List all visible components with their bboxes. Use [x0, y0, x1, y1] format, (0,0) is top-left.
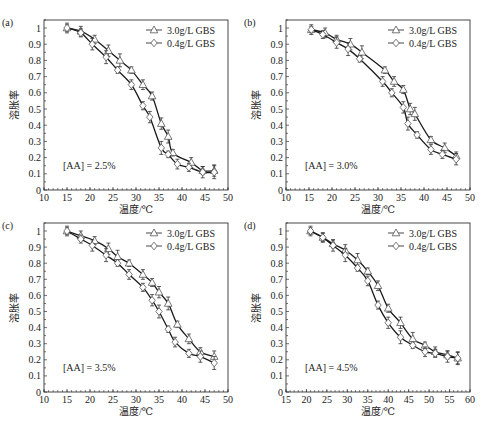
legend-triangle-icon [150, 229, 158, 236]
y-tick-label: 1 [36, 23, 41, 34]
diamond-marker [211, 359, 217, 367]
legend: 3.0g/L GBS0.4g/L GBS [146, 228, 215, 252]
triangle-marker [148, 92, 156, 99]
legend-diamond-icon [393, 242, 399, 250]
fit-curve [67, 28, 214, 173]
y-tick-label: 1 [278, 226, 283, 237]
x-tick-label: 30 [131, 192, 141, 203]
y-tick-label: 0.5 [29, 104, 42, 115]
x-tick-label: 25 [108, 192, 118, 203]
annotation-aa-concentration: [AA] = 2.5% [63, 160, 116, 171]
x-tick-label: 20 [327, 192, 337, 203]
legend-label: 3.0g/L GBS [409, 25, 457, 36]
x-tick-label: 15 [62, 192, 72, 203]
fit-curve [67, 28, 214, 171]
triangle-marker [441, 144, 449, 151]
panel-label: (a) [2, 17, 13, 29]
y-tick-label: 0.8 [29, 258, 42, 269]
legend-diamond-icon [393, 39, 399, 47]
x-tick-label: 45 [442, 192, 452, 203]
y-tick-label: 0.1 [29, 168, 42, 179]
x-tick-label: 35 [154, 394, 164, 405]
legend: 3.0g/L GBS0.4g/L GBS [388, 25, 457, 49]
y-tick-label: 0.9 [29, 242, 42, 253]
diamond-marker [165, 325, 171, 333]
x-tick-label: 60 [465, 394, 475, 405]
chart-panel-b: 00.10.20.30.40.50.60.70.80.9110152025303… [244, 17, 475, 215]
x-tick-label: 40 [177, 192, 187, 203]
y-tick-label: 0.2 [271, 354, 284, 365]
y-tick-label: 0.5 [271, 104, 284, 115]
triangle-marker [374, 282, 382, 289]
x-tick-label: 20 [85, 394, 95, 405]
y-axis-label: 溶胀率 [8, 293, 20, 323]
y-tick-label: 0.9 [271, 242, 284, 253]
x-tick-label: 50 [465, 192, 475, 203]
legend-triangle-icon [150, 26, 158, 33]
y-tick-label: 0.7 [29, 274, 42, 285]
x-tick-label: 50 [223, 394, 233, 405]
legend-label: 3.0g/L GBS [167, 25, 215, 36]
x-tick-label: 40 [177, 394, 187, 405]
x-tick-label: 30 [373, 192, 383, 203]
y-tick-label: 0.9 [29, 39, 42, 50]
fit-curve [311, 30, 456, 160]
chart-panel-d: 00.10.20.30.40.50.60.70.80.9115202530354… [244, 220, 475, 417]
annotation-aa-concentration: [AA] = 3.0% [305, 160, 358, 171]
y-tick-label: 0.2 [29, 152, 42, 163]
diamond-marker [422, 348, 428, 356]
x-tick-label: 55 [445, 394, 455, 405]
x-tick-label: 20 [85, 192, 95, 203]
y-tick-label: 1 [36, 226, 41, 237]
x-tick-label: 50 [424, 394, 434, 405]
triangle-marker [358, 48, 366, 55]
legend-triangle-icon [392, 26, 400, 33]
x-tick-label: 10 [39, 394, 49, 405]
x-tick-label: 25 [322, 394, 332, 405]
annotation-aa-concentration: [AA] = 3.5% [63, 362, 116, 373]
legend-label: 0.4g/L GBS [409, 241, 457, 252]
x-tick-label: 30 [342, 394, 352, 405]
x-tick-label: 35 [396, 192, 406, 203]
annotation-aa-concentration: [AA] = 4.5% [305, 362, 358, 373]
x-tick-label: 35 [154, 192, 164, 203]
chart-panel-c: 00.10.20.30.40.50.60.70.80.9110152025303… [2, 220, 233, 417]
legend-label: 0.4g/L GBS [167, 241, 215, 252]
legend: 3.0g/L GBS0.4g/L GBS [388, 228, 457, 252]
x-tick-label: 25 [350, 192, 360, 203]
x-axis-label: 温度/℃ [361, 203, 395, 215]
chart-panel-a: 00.10.20.30.40.50.60.70.80.9110152025303… [2, 17, 233, 215]
diamond-marker [147, 113, 153, 121]
y-tick-label: 0.9 [271, 39, 284, 50]
panel-label: (c) [2, 220, 13, 232]
diamond-marker [186, 350, 192, 358]
x-tick-label: 15 [281, 394, 291, 405]
y-tick-label: 0.5 [29, 306, 42, 317]
legend-diamond-icon [151, 39, 157, 47]
y-tick-label: 0.1 [29, 370, 42, 381]
y-tick-label: 1 [278, 23, 283, 34]
legend: 3.0g/L GBS0.4g/L GBS [146, 25, 215, 49]
y-tick-label: 0.1 [271, 168, 284, 179]
x-tick-label: 45 [404, 394, 414, 405]
x-tick-label: 40 [383, 394, 393, 405]
legend-label: 0.4g/L GBS [409, 38, 457, 49]
legend-triangle-icon [392, 229, 400, 236]
y-tick-label: 0.6 [29, 290, 42, 301]
y-tick-label: 0.1 [271, 370, 284, 381]
y-tick-label: 0.2 [271, 152, 284, 163]
y-tick-label: 0.3 [271, 136, 284, 147]
panel-label: (d) [244, 220, 256, 232]
x-tick-label: 15 [62, 394, 72, 405]
legend-label: 0.4g/L GBS [167, 38, 215, 49]
y-tick-label: 0.4 [271, 120, 284, 131]
x-axis-label: 温度/℃ [119, 203, 153, 215]
x-tick-label: 10 [39, 192, 49, 203]
y-tick-label: 0.3 [271, 338, 284, 349]
triangle-marker [406, 105, 414, 112]
legend-diamond-icon [151, 242, 157, 250]
chart-canvas: 00.10.20.30.40.50.60.70.80.9110152025303… [0, 0, 488, 422]
x-tick-label: 25 [108, 394, 118, 405]
y-tick-label: 0.7 [271, 274, 284, 285]
y-tick-label: 0.8 [29, 55, 42, 66]
